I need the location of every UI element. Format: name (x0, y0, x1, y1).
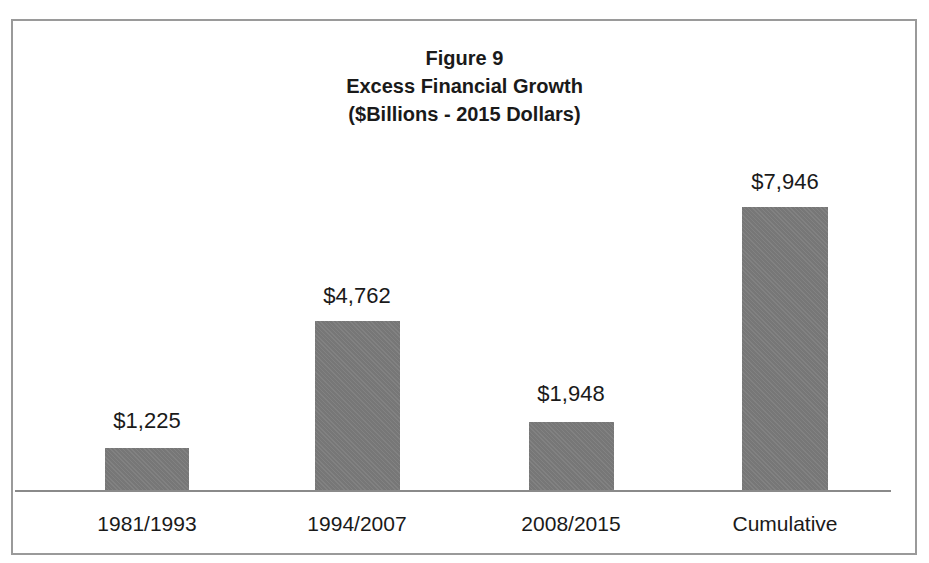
bar-cumulative (742, 207, 828, 491)
title-line-3: ($Billions - 2015 Dollars) (0, 100, 929, 128)
category-label-cumulative: Cumulative (685, 512, 885, 536)
chart-title: Figure 9 Excess Financial Growth ($Billi… (0, 44, 929, 128)
title-line-1: Figure 9 (0, 44, 929, 72)
title-line-2: Excess Financial Growth (0, 72, 929, 100)
category-label-2008-2015: 2008/2015 (471, 512, 671, 536)
x-axis-line (15, 490, 891, 492)
bar-1994-2007 (315, 321, 400, 491)
category-label-1981-1993: 1981/1993 (47, 512, 247, 536)
value-label-1994-2007: $4,762 (257, 283, 457, 309)
category-label-1994-2007: 1994/2007 (257, 512, 457, 536)
value-label-cumulative: $7,946 (685, 169, 885, 195)
value-label-2008-2015: $1,948 (471, 381, 671, 407)
value-label-1981-1993: $1,225 (47, 408, 247, 434)
bar-1981-1993 (105, 448, 189, 491)
bar-2008-2015 (529, 422, 614, 491)
